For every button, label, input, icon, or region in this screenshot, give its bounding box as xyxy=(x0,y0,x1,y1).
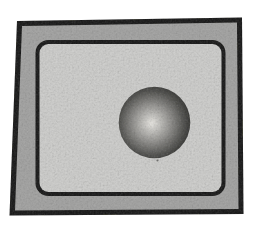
illustration-canvas xyxy=(0,0,260,226)
trackball-illustration xyxy=(0,0,260,226)
grain-texture-overlay xyxy=(10,18,244,216)
